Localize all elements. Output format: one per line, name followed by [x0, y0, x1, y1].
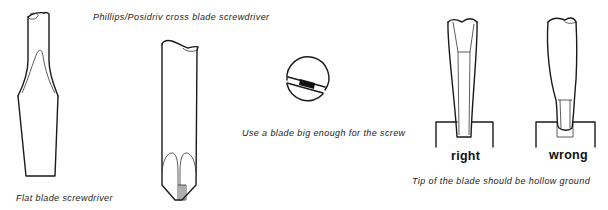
flat-blade-screwdriver-drawing: [18, 13, 58, 176]
screw-head-drawing: [287, 57, 329, 101]
wrong-label: wrong: [549, 149, 588, 162]
phillips-caption: Phillips/Posidriv cross blade screwdrive…: [93, 13, 269, 22]
screw-size-caption: Use a blade big enough for the screw: [242, 129, 406, 138]
right-label: right: [451, 150, 480, 163]
hollow-ground-caption: Tip of the blade should be hollow ground: [412, 177, 590, 186]
hollow-ground-right-drawing: [436, 19, 493, 147]
phillips-screwdriver-drawing: [162, 40, 198, 200]
hollow-ground-wrong-drawing: [536, 18, 595, 147]
flat-blade-caption: Flat blade screwdriver: [16, 194, 113, 203]
